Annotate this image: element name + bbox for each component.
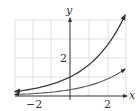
exponential-graph: y x −2 2 2 bbox=[0, 0, 136, 111]
x-tick-label-neg2: −2 bbox=[26, 98, 42, 111]
y-tick-label-2: 2 bbox=[60, 52, 67, 65]
y-axis-label: y bbox=[65, 4, 73, 17]
x-tick-label-2: 2 bbox=[104, 98, 111, 111]
x-axis-label: x bbox=[129, 89, 136, 102]
